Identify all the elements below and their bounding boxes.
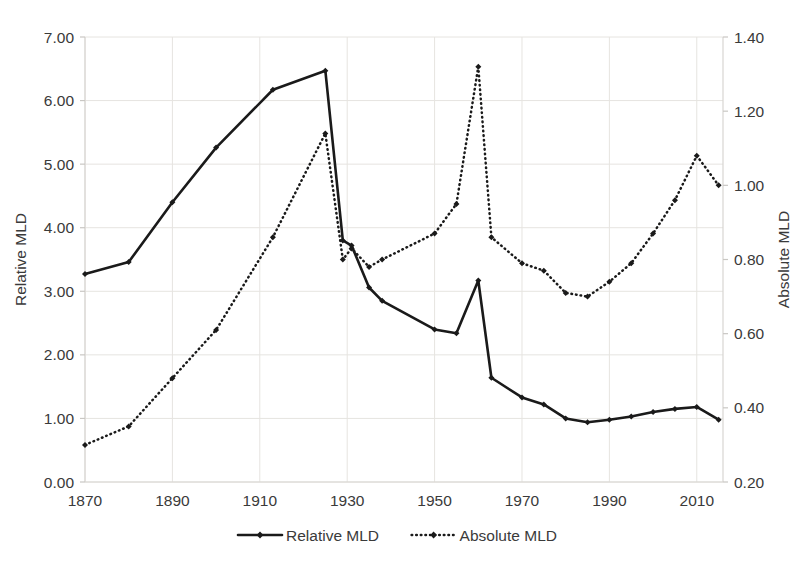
data-point-marker (650, 409, 656, 415)
data-point-marker (585, 419, 591, 425)
y-axis-right-tick-label: 0.60 (734, 325, 765, 342)
y-axis-left-tick-label: 4.00 (44, 219, 75, 236)
x-axis-ticks: 18701890191019301950197019902010 (68, 492, 715, 509)
data-point-marker (82, 442, 88, 448)
y-axis-left-tick-label: 5.00 (44, 156, 75, 173)
grid-layer (85, 37, 723, 482)
y-axis-left-tick-label: 3.00 (44, 283, 75, 300)
y-axis-left-tick-label: 2.00 (44, 346, 75, 363)
y-axis-right-title: Absolute MLD (775, 211, 792, 308)
y-axis-right-ticks: 0.200.400.600.801.001.201.40 (723, 29, 765, 491)
y-axis-right-tick-label: 1.20 (734, 103, 765, 120)
legend-label-2: Absolute MLD (460, 527, 557, 544)
y-axis-left-title: Relative MLD (12, 213, 29, 306)
data-point-marker (541, 268, 547, 274)
y-axis-right-tick-label: 1.40 (734, 29, 765, 46)
x-axis-tick-label: 1990 (592, 492, 627, 509)
y-axis-right-tick-label: 1.00 (734, 177, 765, 194)
line-chart: 0.001.002.003.004.005.006.007.00 0.200.4… (0, 0, 809, 562)
y-axis-left-tick-label: 1.00 (44, 410, 75, 427)
y-axis-left-tick-label: 0.00 (44, 474, 75, 491)
x-axis-tick-label: 1950 (417, 492, 452, 509)
data-point-marker (475, 64, 481, 70)
legend-marker-2 (430, 532, 437, 539)
x-axis-tick-label: 1910 (243, 492, 278, 509)
data-point-marker (379, 257, 385, 263)
x-axis-tick-label: 1930 (330, 492, 365, 509)
y-axis-right-tick-label: 0.40 (734, 399, 765, 416)
legend-marker-1 (257, 532, 264, 539)
x-axis-tick-label: 1870 (68, 492, 103, 509)
chart-legend: Relative MLDAbsolute MLD (238, 527, 557, 544)
data-point-marker (694, 153, 700, 159)
y-axis-left-tick-label: 6.00 (44, 92, 75, 109)
x-axis-tick-label: 1970 (505, 492, 540, 509)
x-axis-tick-label: 2010 (680, 492, 715, 509)
axis-layer (85, 37, 723, 482)
y-axis-right-tick-label: 0.20 (734, 474, 765, 491)
data-point-marker (672, 197, 678, 203)
chart-page: 0.001.002.003.004.005.006.007.00 0.200.4… (0, 0, 809, 562)
y-axis-left-ticks: 0.001.002.003.004.005.006.007.00 (44, 29, 85, 491)
y-axis-left-tick-label: 7.00 (44, 29, 75, 46)
series-line-2 (85, 67, 719, 445)
data-point-marker (606, 417, 612, 423)
y-axis-right-tick-label: 0.80 (734, 251, 765, 268)
x-axis-tick-label: 1890 (155, 492, 190, 509)
legend-label-1: Relative MLD (286, 527, 379, 544)
data-point-marker (672, 406, 678, 412)
data-point-marker (82, 271, 88, 277)
series-layer (82, 64, 722, 448)
